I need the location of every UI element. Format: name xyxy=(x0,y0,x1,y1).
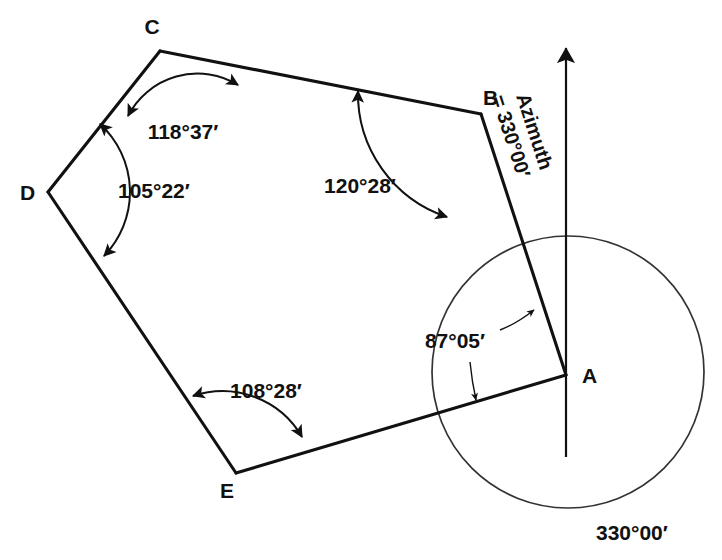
angle-arc-b xyxy=(358,91,447,217)
angle-label-d: 105°22′ xyxy=(118,179,190,202)
traverse-diagram: A B C D E 87°05′ 120°28′ 118°37′ 105°22′… xyxy=(0,0,722,560)
angle-leader-a-lower xyxy=(470,362,476,400)
traverse-side-bc xyxy=(160,51,481,114)
diagram-canvas: A B C D E 87°05′ 120°28′ 118°37′ 105°22′… xyxy=(0,0,722,560)
traverse-side-de xyxy=(48,192,236,473)
vertex-label-d: D xyxy=(20,181,35,204)
angle-label-e: 108°28′ xyxy=(230,379,302,402)
angle-leader-a-upper xyxy=(500,310,534,330)
vertex-label-a: A xyxy=(582,364,597,387)
vertex-label-c: C xyxy=(144,15,159,38)
angle-arc-c xyxy=(128,74,238,116)
circle-azimuth-label: 330°00′ xyxy=(596,521,668,544)
angle-label-c: 118°37′ xyxy=(148,120,219,143)
vertex-label-e: E xyxy=(220,479,234,502)
traverse-side-cd xyxy=(48,51,160,192)
reference-circle xyxy=(432,236,704,508)
angle-label-b: 120°28′ xyxy=(324,174,396,197)
angle-label-a: 87°05′ xyxy=(425,329,485,352)
